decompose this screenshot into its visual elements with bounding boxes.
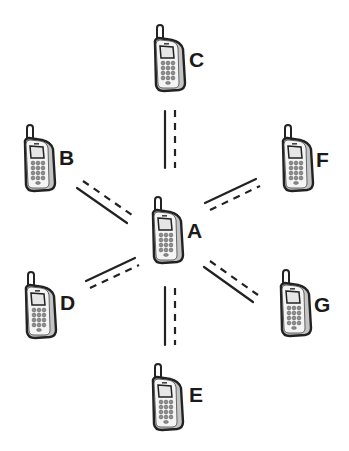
network-diagram: ABCDEFG [0,0,349,451]
dashed-line [210,261,258,295]
node-label: C [189,48,204,71]
node-a: A [153,197,202,263]
mobile-phone-icon [153,364,183,430]
mobile-phone-icon [153,197,183,263]
node-c: C [155,25,204,91]
node-label: D [60,291,75,314]
mobile-phone-icon [26,272,56,338]
mobile-phone-icon [281,270,311,336]
node-label: B [59,146,74,169]
solid-line [204,267,253,302]
node-e: E [153,364,203,430]
node-b: B [25,125,74,191]
link-a-d [86,258,139,288]
node-label: F [316,148,329,171]
link-a-f [205,179,260,210]
node-g: G [281,270,331,336]
node-label: G [314,293,330,316]
nodes-layer: ABCDEFG [25,25,331,430]
node-d: D [26,272,75,338]
node-label: A [187,219,202,242]
link-a-b [77,181,132,223]
mobile-phone-icon [25,125,55,191]
link-a-e [165,287,175,345]
mobile-phone-icon [155,25,185,91]
mobile-phone-icon [283,125,313,191]
link-a-c [165,110,175,168]
node-label: E [189,383,203,406]
link-a-g [204,261,258,302]
node-f: F [283,125,329,191]
